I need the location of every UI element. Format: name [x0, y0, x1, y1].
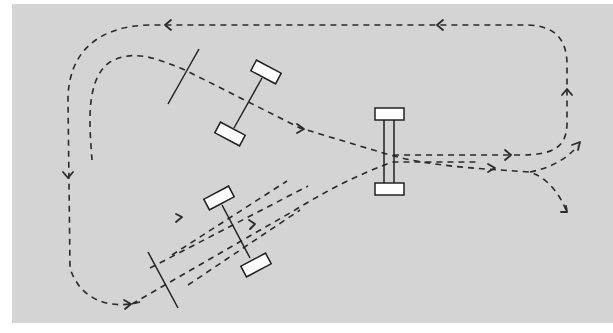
wheel	[241, 253, 271, 277]
branch-path	[530, 146, 578, 172]
inner-path	[90, 56, 566, 210]
wheel	[215, 122, 245, 146]
outer-loop-path	[68, 25, 567, 305]
arrow-right-icon	[488, 164, 495, 172]
arrow-right-icon	[176, 214, 182, 222]
wheel	[375, 183, 404, 195]
trajectory-diagram	[0, 0, 613, 333]
reference-line-upper	[168, 49, 199, 104]
arrow-right-icon	[249, 220, 255, 229]
vehicle-center	[375, 108, 404, 195]
vehicle-upper-left	[215, 60, 281, 146]
wheel	[375, 108, 404, 120]
wheel	[251, 60, 281, 84]
arrow-down-icon	[63, 172, 73, 178]
wheel	[204, 186, 234, 210]
arrow-up-right-icon	[572, 142, 580, 150]
vehicle-lower-left	[204, 186, 271, 277]
diagonal-entry-path	[132, 162, 480, 304]
